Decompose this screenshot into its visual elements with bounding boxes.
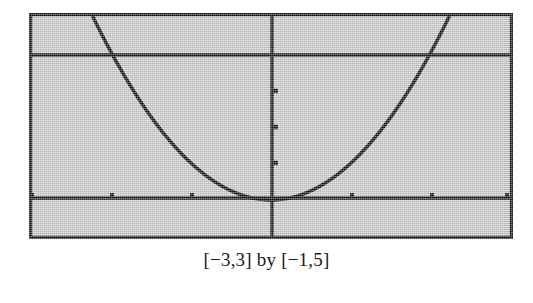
graphing-calculator-figure: [−3,3] by [−1,5] — [0, 0, 533, 303]
plot-canvas — [29, 13, 513, 239]
figure-caption: [−3,3] by [−1,5] — [0, 249, 533, 271]
calculator-screen — [29, 13, 513, 239]
